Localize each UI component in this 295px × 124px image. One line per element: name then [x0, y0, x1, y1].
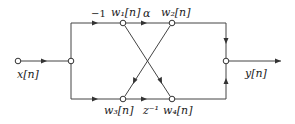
node-w1: [120, 20, 126, 26]
arrow-icon: [141, 97, 147, 102]
output-label: y[n]: [244, 67, 268, 80]
label-w3: w₃[n]: [104, 104, 134, 117]
arrow-icon: [224, 38, 229, 44]
node-w4: [169, 96, 175, 102]
arrow-icon: [92, 97, 98, 102]
node-w3: [120, 96, 126, 102]
sum-node: [223, 58, 229, 64]
label-w1: w₁[n]: [111, 6, 141, 19]
arrow-icon: [141, 21, 147, 26]
arrow-icon: [275, 59, 281, 64]
signal-flow-graph: −1 w₁[n] α w₂[n] x[n] y[n] w₃[n] z⁻¹ w₄[…: [0, 0, 295, 124]
label-w4: w₄[n]: [163, 104, 193, 117]
arrow-icon: [92, 21, 98, 26]
arrow-icon: [41, 59, 47, 64]
input-label: x[n]: [17, 68, 40, 81]
arrow-icon: [224, 78, 229, 84]
split-node: [68, 58, 74, 64]
label-w2: w₂[n]: [161, 6, 191, 19]
gain-z-inverse: z⁻¹: [142, 104, 159, 117]
input-node: [15, 58, 21, 64]
gain-alpha: α: [143, 7, 151, 20]
gain-minus-one: −1: [91, 8, 106, 19]
node-w2: [169, 20, 175, 26]
